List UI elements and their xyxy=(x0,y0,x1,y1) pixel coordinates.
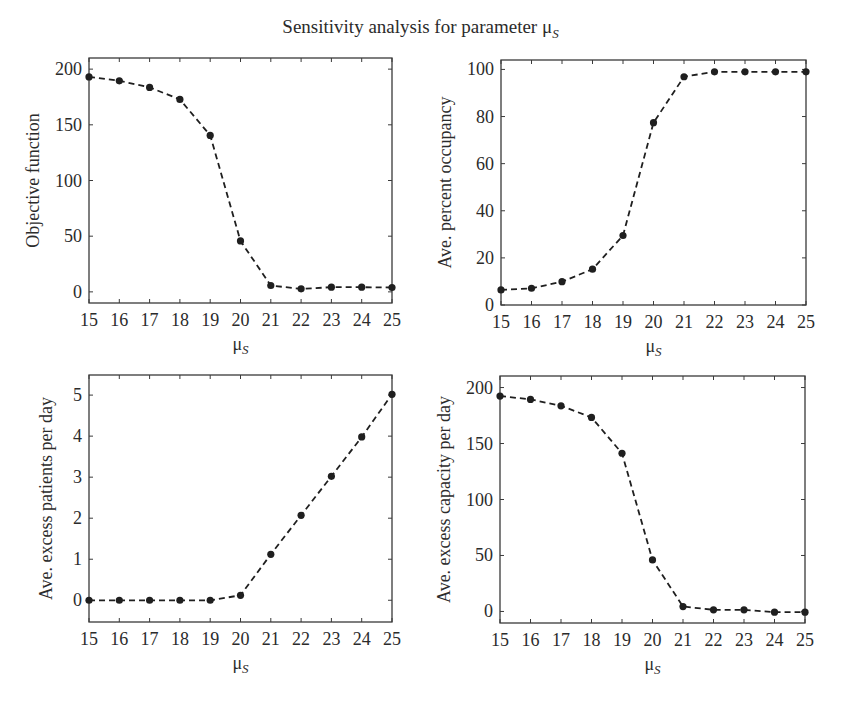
data-point-marker xyxy=(176,96,183,103)
x-tick-label: 19 xyxy=(613,630,631,650)
data-point-marker xyxy=(85,73,92,80)
x-tick-label: 15 xyxy=(491,630,509,650)
data-point-marker xyxy=(176,597,183,604)
data-point-marker xyxy=(527,396,534,403)
x-tick-label: 16 xyxy=(523,312,541,332)
x-tick-label: 21 xyxy=(675,312,693,332)
data-point-marker xyxy=(740,606,747,613)
x-tick-label: 25 xyxy=(383,310,401,330)
y-tick-label: 0 xyxy=(73,590,82,610)
x-axis-label-main: μ xyxy=(232,334,242,354)
subplot-objective-function: 1516171819202122232425050100150200μSObje… xyxy=(23,58,401,357)
x-tick-label: 23 xyxy=(322,629,340,649)
data-point-marker xyxy=(358,433,365,440)
data-point-marker xyxy=(237,592,244,599)
y-tick-label: 0 xyxy=(73,282,82,302)
y-tick-label: 1 xyxy=(73,549,82,569)
x-tick-label: 18 xyxy=(584,312,602,332)
figure: Sensitivity analysis for parameter μS 15… xyxy=(0,0,841,710)
y-tick-label: 5 xyxy=(73,385,82,405)
data-point-marker xyxy=(207,597,214,604)
x-axis-label-subscript: S xyxy=(654,662,661,677)
series-line xyxy=(89,394,392,600)
x-axis-label-subscript: S xyxy=(242,661,249,676)
series-line xyxy=(89,77,392,289)
y-tick-label: 150 xyxy=(55,115,82,135)
y-axis-label: Ave. excess capacity per day xyxy=(434,396,454,603)
data-point-marker xyxy=(589,266,596,273)
x-tick-label: 19 xyxy=(201,310,219,330)
data-point-marker xyxy=(328,473,335,480)
data-point-marker xyxy=(711,68,718,75)
y-tick-label: 20 xyxy=(476,248,494,268)
y-tick-label: 200 xyxy=(466,378,493,398)
x-axis-label-subscript: S xyxy=(655,344,662,359)
x-tick-label: 16 xyxy=(110,310,128,330)
plot-frame xyxy=(89,375,392,622)
x-tick-label: 25 xyxy=(383,629,401,649)
x-tick-label: 18 xyxy=(171,629,189,649)
data-point-marker xyxy=(558,278,565,285)
data-point-marker xyxy=(710,606,717,613)
subplot-average-excess-patients: 1516171819202122232425012345μSAve. exces… xyxy=(36,375,401,676)
x-tick-label: 25 xyxy=(797,312,815,332)
x-tick-label: 21 xyxy=(262,310,280,330)
data-point-marker xyxy=(207,132,214,139)
y-axis-label: Ave. excess patients per day xyxy=(36,397,56,600)
data-point-marker xyxy=(328,284,335,291)
y-tick-label: 100 xyxy=(466,490,493,510)
plot-frame xyxy=(89,58,392,303)
data-point-marker xyxy=(618,450,625,457)
x-tick-label: 19 xyxy=(201,629,219,649)
x-tick-label: 24 xyxy=(767,312,785,332)
x-tick-label: 17 xyxy=(552,630,570,650)
plot-frame xyxy=(500,376,805,623)
x-tick-label: 22 xyxy=(706,312,724,332)
y-tick-label: 50 xyxy=(64,226,82,246)
data-point-marker xyxy=(528,285,535,292)
y-tick-label: 100 xyxy=(55,171,82,191)
x-tick-label: 23 xyxy=(736,312,754,332)
data-point-marker xyxy=(679,603,686,610)
x-axis-label-subscript: S xyxy=(242,342,249,357)
data-point-marker xyxy=(680,73,687,80)
y-tick-label: 50 xyxy=(475,545,493,565)
subplots: 1516171819202122232425050100150200μSObje… xyxy=(0,0,841,710)
data-point-marker xyxy=(741,68,748,75)
y-tick-label: 3 xyxy=(73,467,82,487)
x-tick-label: 17 xyxy=(141,310,159,330)
x-tick-label: 25 xyxy=(796,630,814,650)
x-axis-label-main: μ xyxy=(232,653,242,673)
x-axis-label-main: μ xyxy=(645,336,655,356)
data-point-marker xyxy=(771,609,778,616)
y-tick-label: 2 xyxy=(73,508,82,528)
data-point-marker xyxy=(619,232,626,239)
x-tick-label: 21 xyxy=(262,629,280,649)
x-tick-label: 22 xyxy=(705,630,723,650)
plot-frame xyxy=(501,60,806,305)
x-tick-label: 20 xyxy=(232,310,250,330)
y-tick-label: 40 xyxy=(476,201,494,221)
subplot-average-percent-occupancy: 1516171819202122232425020406080100μSAve.… xyxy=(435,59,815,359)
data-point-marker xyxy=(588,414,595,421)
x-tick-label: 20 xyxy=(232,629,250,649)
y-axis-label: Objective function xyxy=(23,113,43,247)
data-point-marker xyxy=(496,392,503,399)
series-line xyxy=(500,396,805,612)
data-point-marker xyxy=(557,402,564,409)
y-tick-label: 80 xyxy=(476,107,494,127)
x-tick-label: 15 xyxy=(80,310,98,330)
x-tick-label: 22 xyxy=(292,310,310,330)
data-point-marker xyxy=(388,391,395,398)
data-point-marker xyxy=(85,597,92,604)
y-tick-label: 60 xyxy=(476,154,494,174)
y-axis-label: Ave. percent occupancy xyxy=(435,96,455,268)
y-tick-label: 100 xyxy=(467,59,494,79)
x-tick-label: 17 xyxy=(141,629,159,649)
data-point-marker xyxy=(497,286,504,293)
x-tick-label: 15 xyxy=(492,312,510,332)
x-tick-label: 18 xyxy=(171,310,189,330)
data-point-marker xyxy=(802,68,809,75)
x-tick-label: 16 xyxy=(522,630,540,650)
x-axis-label: μS xyxy=(232,653,249,676)
